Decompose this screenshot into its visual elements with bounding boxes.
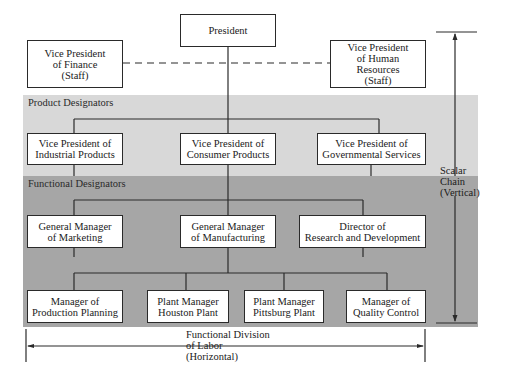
plant-manager-pittsburg-box: Plant Manager Pittsburg Plant bbox=[244, 290, 324, 323]
scalar-chain-label: Scalar Chain (Vertical) bbox=[440, 165, 480, 198]
director-research-development-box: Director of Research and Development bbox=[299, 215, 426, 248]
vp-industrial-products-box: Vice President of Industrial Products bbox=[27, 133, 123, 165]
functional-division-label: Functional Division of Labor (Horizontal… bbox=[186, 329, 270, 362]
president-box: President bbox=[180, 14, 276, 47]
manager-quality-control-box: Manager of Quality Control bbox=[346, 290, 426, 323]
vp-human-resources-staff-box: Vice President of Human Resources (Staff… bbox=[330, 40, 426, 88]
vp-governmental-services-box: Vice President of Governmental Services bbox=[317, 133, 426, 165]
vp-consumer-products-box: Vice President of Consumer Products bbox=[180, 133, 276, 165]
gm-manufacturing-box: General Manager of Manufacturing bbox=[180, 215, 276, 248]
plant-manager-houston-box: Plant Manager Houston Plant bbox=[147, 290, 229, 323]
vp-finance-staff-box: Vice President of Finance (Staff) bbox=[27, 40, 123, 88]
manager-production-planning-box: Manager of Production Planning bbox=[27, 290, 123, 323]
gm-marketing-box: General Manager of Marketing bbox=[27, 215, 123, 248]
